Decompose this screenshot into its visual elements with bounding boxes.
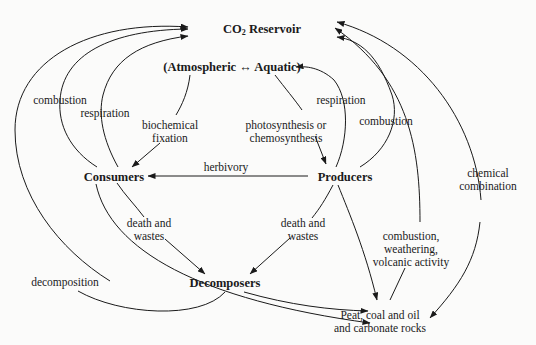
edge-consumers-respiration-to-co2: [101, 36, 188, 167]
edge-producers-death-line: [312, 185, 333, 218]
node-fossil-reservoir: Peat, coal and oil and carbonate rocks: [334, 309, 426, 335]
co2-text: CO: [223, 22, 242, 36]
node-producers: Producers: [318, 170, 373, 184]
biochemical-line-2: fixation: [142, 132, 198, 145]
edge-atmos-to-consumers-line: [176, 75, 190, 115]
node-consumers: Consumers: [84, 170, 144, 184]
edge-consumers-death-line: [117, 183, 144, 217]
edge-producers-death-to-decomposers: [250, 238, 290, 274]
label-decomposition: decomposition: [31, 276, 99, 289]
biochemical-line-1: biochemical: [142, 119, 198, 132]
death-right-line-1: death and: [281, 217, 325, 230]
label-biochemical-fixation: biochemical fixation: [142, 119, 198, 145]
label-respiration-right: respiration: [316, 94, 365, 107]
edge-producers-to-fossil: [338, 185, 377, 300]
label-herbivory: herbivory: [204, 161, 249, 174]
fossil-line-2: and carbonate rocks: [334, 322, 426, 335]
node-co2-reservoir: CO2 Reservoir: [223, 22, 301, 40]
label-chemical-combination: chemical combination: [459, 167, 517, 193]
chemical-line-2: combination: [459, 180, 517, 193]
label-combustion-left: combustion: [33, 94, 87, 107]
edge-cwv-to-fossil-line: [390, 268, 405, 300]
node-decomposers: Decomposers: [190, 276, 261, 290]
edge-consumers-death-to-decomposers: [165, 239, 205, 274]
node-atmospheric-aquatic: (Atmospheric ↔ Aquatic): [163, 60, 301, 74]
death-left-line-1: death and: [127, 217, 171, 230]
edge-fixation-to-consumers: [132, 143, 160, 167]
chemical-line-1: chemical: [459, 167, 517, 180]
reservoir-text: Reservoir: [246, 22, 301, 36]
photosynthesis-line-1: photosynthesis or: [246, 119, 327, 132]
edge-consumers-to-fossil: [96, 184, 370, 323]
photosynthesis-line-2: chemosynthesis: [246, 132, 327, 145]
carbon-cycle-diagram: CO2 Reservoir (Atmospheric ↔ Aquatic) Co…: [0, 0, 536, 345]
label-respiration-left: respiration: [80, 107, 129, 120]
edge-decomposers-decomposition: [78, 291, 225, 311]
cwv-line-3: volcanic activity: [373, 256, 449, 269]
death-right-line-2: wastes: [281, 230, 325, 243]
edges-layer: [0, 0, 536, 345]
cwv-line-1: combustion,: [373, 230, 449, 243]
fossil-line-1: Peat, coal and oil: [334, 309, 426, 322]
label-death-wastes-left: death and wastes: [127, 217, 171, 243]
cwv-line-2: weathering,: [373, 243, 449, 256]
edge-atmos-to-producers-line: [275, 75, 302, 110]
label-death-wastes-right: death and wastes: [281, 217, 325, 243]
label-photosynthesis: photosynthesis or chemosynthesis: [246, 119, 327, 145]
label-combustion-weathering-volcanic: combustion, weathering, volcanic activit…: [373, 230, 449, 269]
death-left-line-2: wastes: [127, 230, 171, 243]
label-combustion-right: combustion: [359, 115, 413, 128]
